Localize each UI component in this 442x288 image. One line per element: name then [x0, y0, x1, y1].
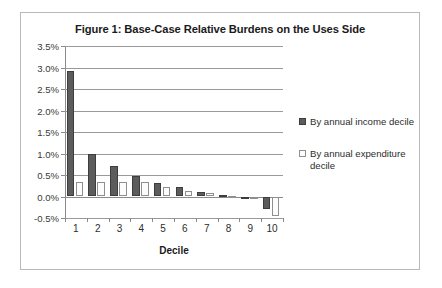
x-axis-tick — [196, 218, 197, 222]
bar[interactable] — [250, 197, 258, 199]
legend-entry[interactable]: By annual expenditure decile — [299, 148, 417, 172]
x-axis-tick — [261, 218, 262, 222]
x-axis-tick — [109, 218, 110, 222]
y-axis-tick-label: 3.5% — [37, 41, 59, 52]
x-axis-tick-label: 3 — [117, 223, 123, 234]
bar[interactable] — [67, 71, 75, 197]
bar[interactable] — [263, 197, 271, 209]
x-axis-tick-label: 4 — [139, 223, 145, 234]
bar-group — [152, 46, 174, 218]
chart-title: Figure 1: Base-Case Relative Burdens on … — [21, 23, 419, 35]
x-axis-tick — [152, 218, 153, 222]
bar-group — [109, 46, 131, 218]
bar-group — [65, 46, 87, 218]
bar[interactable] — [176, 187, 184, 196]
bar[interactable] — [76, 182, 84, 197]
bar[interactable] — [119, 182, 127, 196]
bar-group — [174, 46, 196, 218]
y-axis-tick-label: 3.0% — [37, 62, 59, 73]
bar-group — [196, 46, 218, 218]
bar[interactable] — [228, 196, 236, 198]
y-axis-tick-label: 1.5% — [37, 127, 59, 138]
legend-label: By annual income decile — [310, 116, 414, 128]
x-axis-tick-label: 7 — [204, 223, 210, 234]
legend-swatch-icon — [299, 118, 306, 125]
x-axis-tick — [65, 218, 66, 222]
bar-group — [261, 46, 283, 218]
figure-frame: Figure 1: Base-Case Relative Burdens on … — [20, 12, 420, 270]
y-axis-tick-label: 1.0% — [37, 148, 59, 159]
x-axis-tick-label: 2 — [95, 223, 101, 234]
x-axis-tick — [283, 218, 284, 222]
x-axis-tick — [174, 218, 175, 222]
bar[interactable] — [197, 192, 205, 197]
x-axis-tick-label: 8 — [226, 223, 232, 234]
bar[interactable] — [132, 176, 140, 196]
x-axis-tick — [130, 218, 131, 222]
legend-entry[interactable]: By annual income decile — [299, 116, 417, 128]
bars-layer — [65, 46, 283, 218]
bar[interactable] — [110, 166, 118, 197]
bar[interactable] — [206, 193, 214, 196]
y-axis-tick-label: 0.5% — [37, 170, 59, 181]
bar[interactable] — [88, 154, 96, 196]
bar-group — [218, 46, 240, 218]
plot-area: 3.5%3.0%2.5%2.0%1.5%1.0%0.5%0.0%-0.5% 12… — [65, 46, 283, 218]
x-axis-tick-label: 1 — [73, 223, 79, 234]
y-axis-tick-label: 2.0% — [37, 105, 59, 116]
chart-legend: By annual income decileBy annual expendi… — [299, 116, 417, 192]
bar[interactable] — [185, 191, 193, 197]
x-axis-tick-label: 10 — [267, 223, 278, 234]
x-axis-tick-label: 5 — [160, 223, 166, 234]
bar[interactable] — [163, 187, 171, 196]
y-axis-tick-label: -0.5% — [34, 213, 59, 224]
legend-label: By annual expenditure decile — [310, 148, 417, 172]
bar[interactable] — [219, 195, 227, 197]
x-axis-tick — [87, 218, 88, 222]
bar-group — [130, 46, 152, 218]
x-axis-title: Decile — [65, 245, 283, 256]
bar[interactable] — [97, 182, 105, 196]
legend-swatch-icon — [299, 150, 306, 157]
x-axis-tick-label: 6 — [182, 223, 188, 234]
y-axis-tick-label: 0.0% — [37, 191, 59, 202]
y-axis-tick-label: 2.5% — [37, 84, 59, 95]
bar-group — [239, 46, 261, 218]
bar[interactable] — [141, 182, 149, 196]
bar[interactable] — [241, 197, 249, 199]
x-axis-tick-label: 9 — [248, 223, 254, 234]
x-axis-tick — [218, 218, 219, 222]
x-axis-ticks — [65, 218, 283, 222]
bar[interactable] — [272, 197, 280, 216]
bar-group — [87, 46, 109, 218]
x-axis-tick — [239, 218, 240, 222]
bar[interactable] — [154, 183, 162, 197]
